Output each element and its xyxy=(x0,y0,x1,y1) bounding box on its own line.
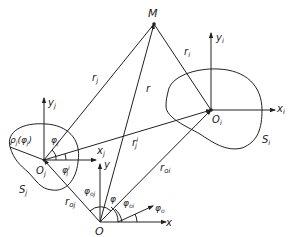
region-si-boundary xyxy=(166,69,262,149)
label-y: y xyxy=(103,159,111,170)
label-rj-prime: rij xyxy=(132,136,138,150)
label-phi-o: φo xyxy=(155,203,165,214)
label-oj: Oj xyxy=(36,165,46,178)
label-ri: ri xyxy=(184,46,190,59)
vector-r xyxy=(100,24,154,222)
angle-arc-phi-oi xyxy=(115,209,122,222)
vector-ri xyxy=(154,24,211,110)
label-boundary-function: ρj(φj) xyxy=(10,135,32,147)
point-oj xyxy=(43,159,46,162)
label-yi: yi xyxy=(215,32,224,45)
angle-arc-phi-j xyxy=(52,150,56,160)
label-roj: roj xyxy=(65,196,75,209)
point-m xyxy=(152,22,156,26)
label-yj: yj xyxy=(47,97,56,110)
label-r: r xyxy=(146,83,151,94)
label-roi: roi xyxy=(160,162,170,175)
label-xj: xj xyxy=(96,145,105,158)
label-oi: Oi xyxy=(212,114,222,127)
angle-arc-phi-j-prime xyxy=(65,154,66,160)
label-si: Si xyxy=(262,134,270,147)
kinematic-diagram: M O Oj Oi Sj Si rj ri r rij roj roi x y … xyxy=(0,0,293,237)
label-phi-j: φj xyxy=(51,135,59,147)
label-rj: rj xyxy=(92,72,98,85)
point-oi xyxy=(209,108,213,112)
label-phi-oi: φoi xyxy=(123,198,135,209)
angle-arc-phi-o xyxy=(135,214,137,222)
label-phi-j-prime: φij xyxy=(62,164,70,177)
label-xi: xi xyxy=(276,103,285,116)
label-phi: φ xyxy=(110,194,116,204)
label-x: x xyxy=(165,217,172,228)
label-phi-oj: φoj xyxy=(84,186,96,198)
label-o: O xyxy=(95,225,104,237)
label-sj: Sj xyxy=(19,184,27,197)
label-m: M xyxy=(148,7,158,20)
